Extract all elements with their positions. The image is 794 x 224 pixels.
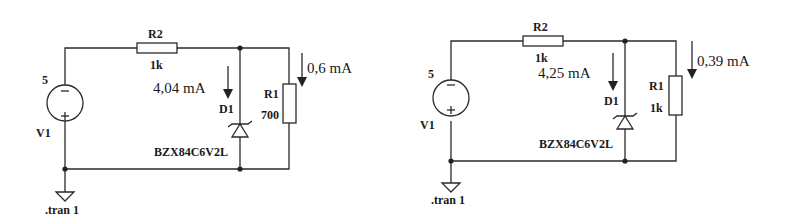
resistor-r2-icon bbox=[523, 36, 563, 46]
r1-ref: R1 bbox=[264, 87, 279, 101]
zener-diode-icon bbox=[228, 121, 252, 137]
wire-top-right bbox=[177, 48, 289, 84]
junction-dot bbox=[622, 158, 627, 163]
junction-dot bbox=[622, 38, 627, 43]
source-ref: V1 bbox=[420, 118, 435, 132]
r1-value: 1k bbox=[650, 101, 663, 115]
arrow-down-icon bbox=[223, 66, 233, 99]
arrow-down-icon bbox=[297, 53, 307, 87]
r2-value: 1k bbox=[535, 51, 548, 65]
schematics: 5 V1 R2 1k D1 BZX84C6V2L 4,04 mA R1 700 … bbox=[0, 0, 794, 224]
source-value: 5 bbox=[428, 67, 434, 81]
ground-icon bbox=[56, 192, 74, 201]
wire-top-left bbox=[451, 41, 523, 85]
load-current-label: 0,39 mA bbox=[697, 53, 750, 69]
resistor-r1-icon bbox=[669, 76, 682, 115]
source-value: 5 bbox=[42, 73, 48, 87]
resistor-r2-icon bbox=[137, 43, 177, 53]
arrow-down-icon bbox=[608, 53, 618, 91]
directive-label: .tran 1 bbox=[45, 203, 79, 217]
junction-dot bbox=[62, 166, 67, 171]
zener-diode-icon bbox=[613, 113, 637, 129]
voltage-source-icon bbox=[47, 85, 83, 121]
r2-ref: R2 bbox=[533, 20, 548, 34]
directive-label: .tran 1 bbox=[431, 193, 465, 207]
load-current-label: 0,6 mA bbox=[307, 60, 352, 76]
voltage-source-icon bbox=[433, 80, 469, 116]
ground-icon bbox=[442, 183, 460, 192]
junction-dot bbox=[237, 166, 242, 171]
circuit-right: 5 V1 R2 1k D1 BZX84C6V2L 4,25 mA R1 1k 0… bbox=[420, 20, 750, 207]
d1-ref: D1 bbox=[604, 94, 619, 108]
junction-dot bbox=[237, 45, 242, 50]
r2-ref: R2 bbox=[148, 27, 163, 41]
zener-current-label: 4,04 mA bbox=[153, 80, 206, 96]
d1-ref: D1 bbox=[219, 102, 234, 116]
zener-current-label: 4,25 mA bbox=[538, 65, 591, 81]
circuit-left: 5 V1 R2 1k D1 BZX84C6V2L 4,04 mA R1 700 … bbox=[36, 27, 352, 217]
resistor-r1-icon bbox=[283, 84, 296, 123]
arrow-down-icon bbox=[687, 41, 697, 79]
r2-value: 1k bbox=[150, 58, 163, 72]
d1-part: BZX84C6V2L bbox=[154, 145, 228, 159]
r1-value: 700 bbox=[261, 108, 279, 122]
d1-part: BZX84C6V2L bbox=[539, 137, 613, 151]
r1-ref: R1 bbox=[649, 79, 664, 93]
wire-top-left bbox=[65, 48, 137, 85]
junction-dot bbox=[448, 158, 453, 163]
source-ref: V1 bbox=[36, 126, 51, 140]
